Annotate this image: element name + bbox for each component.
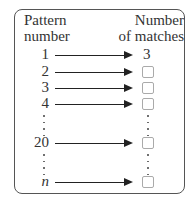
arrow-icon bbox=[55, 88, 131, 89]
pattern-number-1: 1 bbox=[19, 46, 49, 63]
answer-box-3[interactable] bbox=[142, 82, 154, 94]
arrow-icon bbox=[55, 143, 131, 144]
pattern-number-n: n bbox=[19, 173, 49, 190]
header-line: Number bbox=[119, 12, 184, 28]
answer-box-20[interactable] bbox=[142, 137, 154, 149]
header-line: of matches bbox=[119, 28, 184, 44]
header-line: Pattern bbox=[24, 12, 70, 28]
pattern-number-2: 2 bbox=[19, 63, 49, 80]
header-line: number bbox=[24, 28, 70, 44]
arrow-icon bbox=[55, 182, 131, 183]
pattern-number-header: Pattern number bbox=[24, 12, 70, 44]
arrow-icon bbox=[55, 55, 131, 56]
pattern-number-4: 4 bbox=[19, 95, 49, 112]
answer-box-2[interactable] bbox=[142, 66, 154, 78]
answer-box-n[interactable] bbox=[142, 176, 154, 188]
arrow-icon bbox=[55, 104, 131, 105]
answer-box-4[interactable] bbox=[142, 98, 154, 110]
pattern-number-3: 3 bbox=[19, 79, 49, 96]
arrow-icon bbox=[55, 72, 131, 73]
number-of-matches-header: Number of matches bbox=[119, 12, 184, 44]
pattern-number-20: 20 bbox=[19, 134, 49, 151]
matches-value-1: 3 bbox=[143, 46, 151, 63]
